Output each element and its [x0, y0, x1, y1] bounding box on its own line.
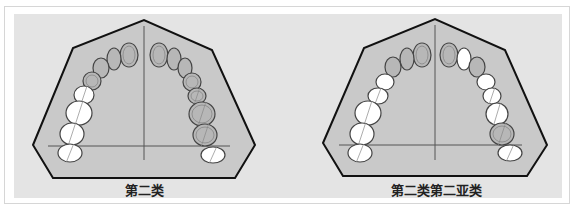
- tooth: [486, 103, 508, 125]
- tooth: [120, 43, 138, 67]
- tooth: [189, 102, 215, 126]
- tooth: [355, 101, 381, 125]
- tooth: [58, 144, 82, 162]
- tooth: [201, 147, 225, 163]
- tooth: [483, 88, 501, 104]
- tooth: [400, 48, 414, 70]
- tooth: [193, 124, 217, 146]
- tooth: [150, 43, 168, 67]
- tooth: [348, 144, 372, 162]
- tooth: [66, 101, 92, 125]
- tooth: [413, 43, 431, 67]
- tooth: [498, 145, 522, 161]
- caption-class-two-subdivision-two: 第二类第二亚类: [336, 180, 536, 199]
- arch-diagram-0: [33, 20, 255, 178]
- tooth: [440, 43, 458, 67]
- tooth: [350, 123, 374, 145]
- tooth: [490, 123, 514, 145]
- tooth: [60, 123, 84, 145]
- arch-diagram-1: [323, 19, 547, 176]
- caption-class-two: 第二类: [44, 180, 244, 199]
- dental-arch-diagrams: [0, 0, 574, 210]
